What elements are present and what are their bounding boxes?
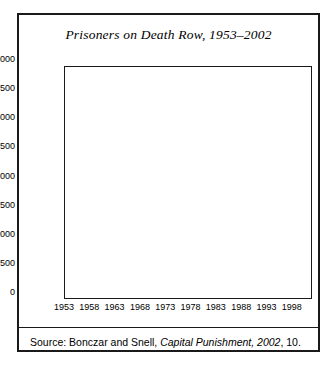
source-prefix: Source: Bonczar and Snell, (30, 336, 160, 348)
y-tick-label: 3000 (0, 113, 15, 122)
x-tick-label: 1988 (231, 303, 251, 312)
y-tick-label: 2000 (0, 171, 15, 180)
y-tick-label: 3500 (0, 84, 15, 93)
x-tick-label: 1968 (130, 303, 150, 312)
footer-divider (19, 327, 318, 328)
y-axis-labels: 05001000150020002500300035004000 (0, 59, 15, 292)
figure-title: Prisoners on Death Row, 1953–2002 (19, 27, 318, 43)
y-tick-label: 500 (0, 258, 15, 267)
source-note: Source: Bonczar and Snell, Capital Punis… (30, 335, 310, 349)
y-tick-label: 0 (10, 288, 15, 297)
x-tick-label: 1953 (54, 303, 74, 312)
plot-frame (64, 66, 312, 299)
x-tick-label: 1958 (79, 303, 99, 312)
x-tick-label: 1963 (105, 303, 125, 312)
y-tick-label: 1000 (0, 229, 15, 238)
source-title: Capital Punishment, 2002 (160, 336, 280, 348)
figure-container: Prisoners on Death Row, 1953–2002 050010… (17, 13, 320, 352)
x-tick-label: 1998 (282, 303, 302, 312)
x-tick-label: 1973 (155, 303, 175, 312)
x-axis-labels: 1953195819631968197319781983198819931998 (64, 303, 312, 317)
x-tick-label: 1993 (256, 303, 276, 312)
source-suffix: , 10. (280, 336, 300, 348)
x-tick-label: 1978 (181, 303, 201, 312)
y-tick-label: 1500 (0, 200, 15, 209)
y-tick-label: 2500 (0, 142, 15, 151)
y-tick-label: 4000 (0, 55, 15, 64)
x-tick-label: 1983 (206, 303, 226, 312)
plot-area (64, 66, 312, 299)
